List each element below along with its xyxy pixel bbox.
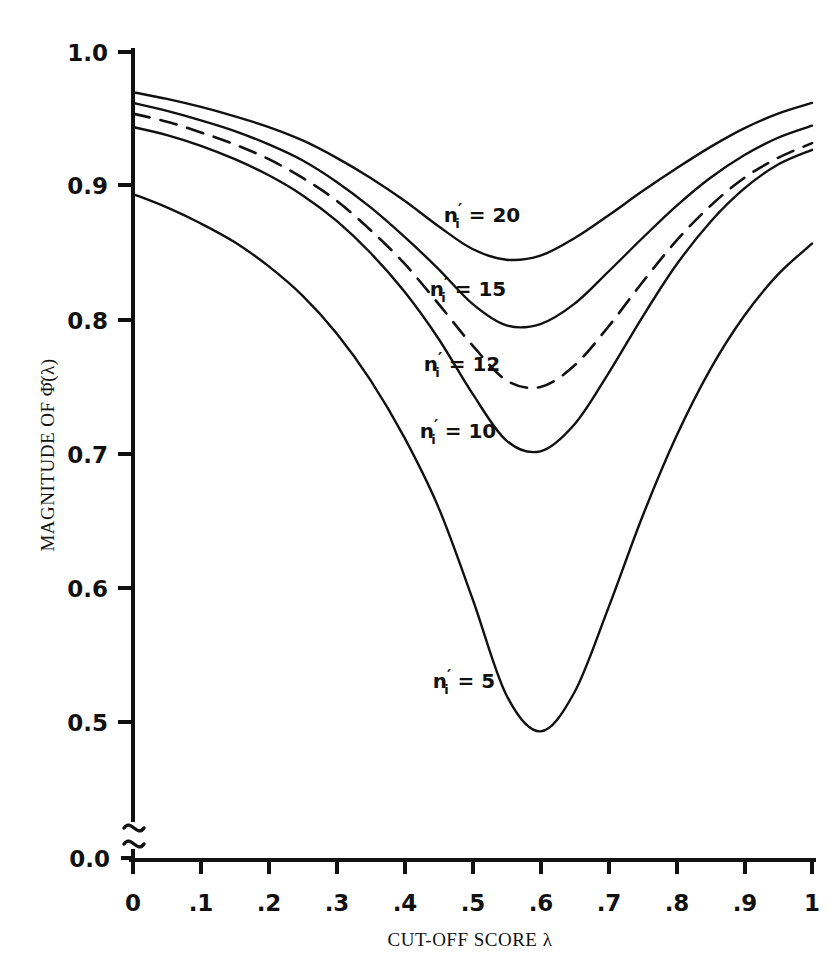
x-tick-label-1: 1: [804, 890, 820, 916]
y-tick-label-0.7: 0.7: [67, 442, 108, 468]
curves-group: [133, 92, 812, 731]
y-tick-label-0.0: 0.0: [69, 846, 110, 872]
x-tick-label-0.1: .1: [189, 890, 214, 916]
curve-label-n12: n′i = 12: [424, 349, 500, 380]
curve-labels-group: n′i = 20n′i = 15n′i = 12n′i = 10n′i = 5: [420, 200, 520, 697]
curve-5: [133, 194, 812, 731]
chart-svg: 1.0 0.9 0.8 0.7 0.6 0.5 0.0 MAGNITUDE OF…: [0, 0, 831, 972]
y-axis-group: 1.0 0.9 0.8 0.7 0.6 0.5 0.0 MAGNITUDE OF…: [37, 40, 144, 872]
x-tick-label-0: 0: [125, 890, 141, 916]
x-tick-label-0.2: .2: [257, 890, 282, 916]
x-tick-label-0.5: .5: [461, 890, 486, 916]
x-tick-label-0.9: .9: [733, 890, 758, 916]
figure-canvas: 1.0 0.9 0.8 0.7 0.6 0.5 0.0 MAGNITUDE OF…: [0, 0, 831, 972]
x-tick-label-0.4: .4: [393, 890, 418, 916]
x-tick-label-0.3: .3: [325, 890, 350, 916]
curve-label-n5: n′i = 5: [433, 666, 496, 697]
curve-20: [133, 92, 812, 260]
y-axis-break-icon: [124, 825, 144, 847]
x-tick-label-0.8: .8: [665, 890, 690, 916]
y-tick-label-1.0: 1.0: [67, 40, 108, 66]
x-tick-label-0.6: .6: [529, 890, 554, 916]
y-axis-title: MAGNITUDE OF Φ̂(λ): [37, 358, 59, 551]
curve-label-n20: n′i = 20: [444, 200, 520, 231]
curve-12: [133, 114, 812, 388]
curve-label-n15: n′i = 15: [430, 274, 506, 305]
y-tick-label-0.8: 0.8: [67, 308, 108, 334]
y-tick-label-0.6: 0.6: [67, 576, 108, 602]
x-axis-title: CUT-OFF SCORE λ: [388, 929, 553, 950]
y-tick-label-0.5: 0.5: [67, 710, 108, 736]
curve-label-n10: n′i = 10: [420, 416, 496, 447]
x-tick-label-0.7: .7: [597, 890, 622, 916]
x-axis-group: 0 .1 .2 .3 .4 .5 .6 .7 .8 .9 1 CUT-OFF S…: [125, 860, 820, 950]
y-tick-label-0.9: 0.9: [67, 173, 108, 199]
